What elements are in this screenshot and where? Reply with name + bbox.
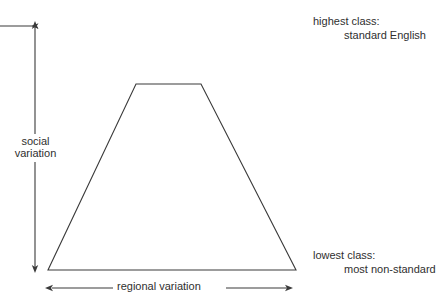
axis-label-social-variation: social variation bbox=[0, 134, 71, 161]
diagram-canvas: social variation regional variation high… bbox=[0, 0, 444, 304]
annotation-highest-class-line1: highest class: bbox=[313, 16, 426, 28]
axis-label-regional-variation: regional variation bbox=[113, 281, 205, 293]
axis-label-social-variation-line2: variation bbox=[0, 148, 71, 160]
annotation-lowest-class-line2: most non-standard bbox=[313, 264, 436, 276]
axis-label-social-variation-line1: social bbox=[21, 135, 49, 147]
axis-label-regional-variation-text: regional variation bbox=[117, 280, 201, 292]
annotation-highest-class: highest class: standard English bbox=[313, 16, 426, 41]
trapezoid-shape bbox=[48, 84, 296, 270]
annotation-lowest-class-line1: lowest class: bbox=[313, 250, 436, 262]
annotation-highest-class-line2: standard English bbox=[313, 30, 426, 42]
annotation-lowest-class: lowest class: most non-standard bbox=[313, 250, 436, 275]
